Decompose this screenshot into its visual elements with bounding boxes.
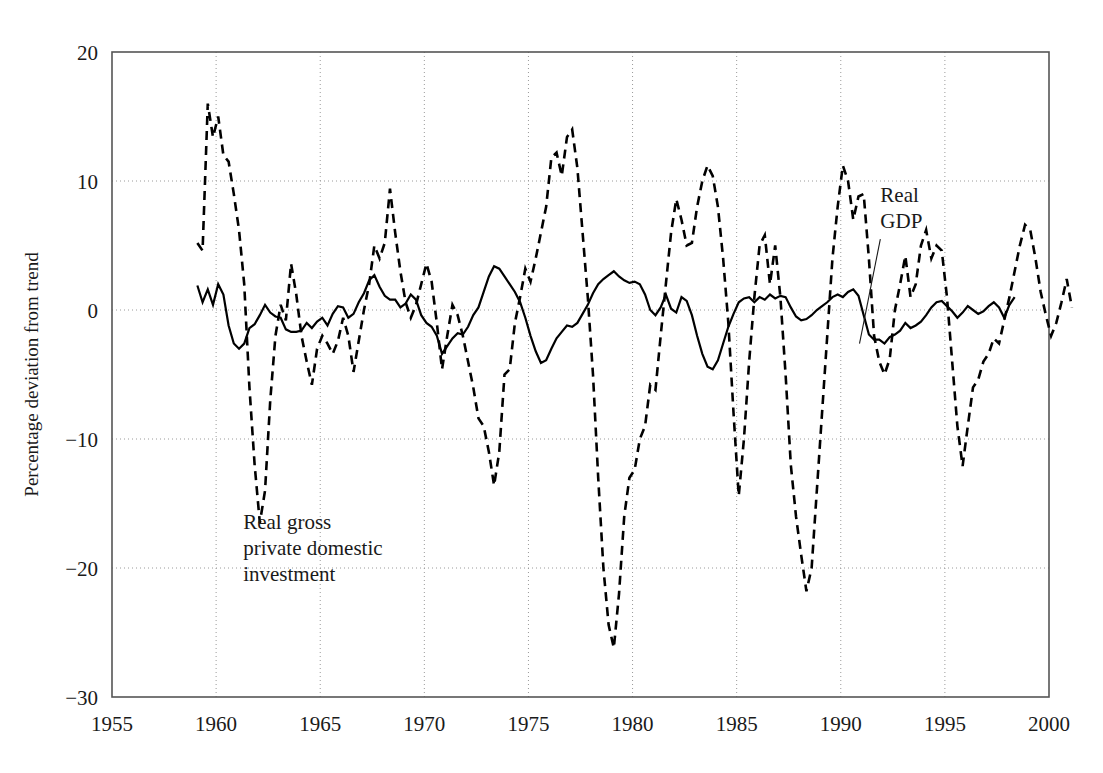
y-tick-label: 10 [77, 170, 98, 194]
annotation-label: Real [880, 183, 919, 207]
y-tick-label: 20 [77, 41, 98, 65]
x-tick-label: 1960 [195, 712, 237, 736]
y-tick-label: −20 [65, 557, 98, 581]
x-tick-label: 1975 [507, 712, 549, 736]
y-tick-label: −10 [65, 428, 98, 452]
y-tick-label: 0 [88, 299, 99, 323]
chart-figure: 1955196019651970197519801985199019952000… [0, 0, 1103, 773]
y-axis-title: Percentage deviation from trend [21, 252, 42, 497]
annotation-label: private domestic [243, 536, 382, 560]
x-tick-label: 1990 [820, 712, 862, 736]
x-tick-label: 1985 [716, 712, 758, 736]
annotation-label: Real gross [243, 510, 331, 534]
x-tick-label: 1995 [924, 712, 966, 736]
chart-background [0, 0, 1103, 773]
y-tick-label: −30 [65, 686, 98, 710]
annotation-label: GDP [880, 209, 922, 233]
deviation-from-trend-line-chart: 1955196019651970197519801985199019952000… [0, 0, 1103, 773]
x-tick-label: 1965 [299, 712, 341, 736]
x-tick-label: 2000 [1028, 712, 1070, 736]
y-axis-title-text: Percentage deviation from trend [21, 252, 42, 497]
x-tick-label: 1955 [91, 712, 133, 736]
x-tick-label: 1980 [612, 712, 654, 736]
annotation-label: investment [243, 562, 335, 586]
x-tick-label: 1970 [403, 712, 445, 736]
